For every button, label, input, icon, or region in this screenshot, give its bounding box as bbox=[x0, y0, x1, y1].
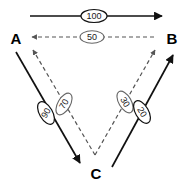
edge-b-to-a-weight: 50 bbox=[87, 32, 97, 42]
edge-a-to-c: 90 bbox=[16, 52, 80, 163]
node-label-a: A bbox=[11, 30, 22, 47]
node-label-b: B bbox=[167, 30, 178, 47]
node-label-c: C bbox=[91, 165, 102, 182]
edge-c-to-b-dashed: 30 bbox=[95, 50, 155, 155]
edge-a-to-b-weight: 100 bbox=[86, 11, 101, 21]
edge-b-to-a: 50 bbox=[32, 31, 154, 43]
edge-c-to-b-solid: 20 bbox=[112, 55, 173, 167]
graph-diagram: 100 50 90 70 30 20 bbox=[0, 0, 189, 189]
graph-canvas: 100 50 90 70 30 20 bbox=[0, 0, 189, 189]
edge-a-to-b: 100 bbox=[30, 10, 162, 23]
